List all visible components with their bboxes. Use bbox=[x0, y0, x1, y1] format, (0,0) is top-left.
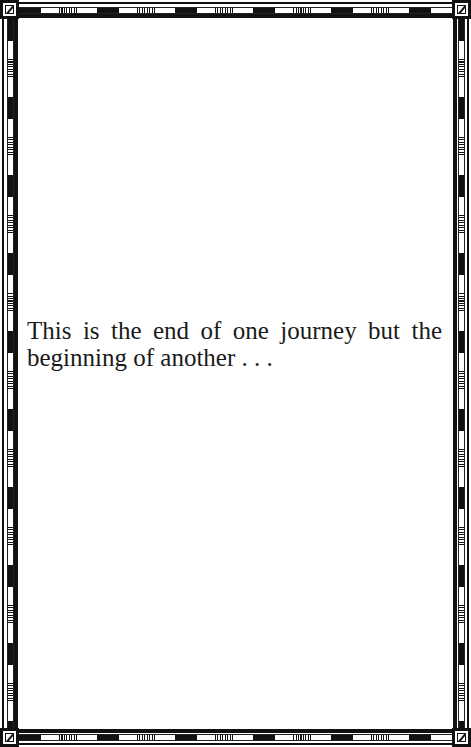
hatch-segment bbox=[459, 293, 464, 313]
text-line-2: beginning of another . . . bbox=[27, 344, 442, 371]
border-top bbox=[19, 0, 452, 19]
corner-ornament-top-left bbox=[0, 0, 19, 19]
hatch-segment bbox=[215, 8, 235, 13]
text-line-1: This is the end of one journey but the bbox=[27, 317, 442, 344]
hatch-segment bbox=[8, 215, 13, 235]
hatch-segment bbox=[459, 137, 464, 157]
border-bottom bbox=[19, 728, 452, 747]
closing-passage: This is the end of one journey but the b… bbox=[27, 317, 442, 371]
corner-diagonal-icon bbox=[457, 5, 466, 14]
hatch-segment bbox=[137, 8, 157, 13]
corner-diagonal-icon bbox=[5, 5, 14, 14]
hatch-segment bbox=[8, 449, 13, 469]
corner-diagonal-icon bbox=[457, 733, 466, 742]
hatch-segment bbox=[8, 605, 13, 625]
corner-ornament-bottom-left bbox=[0, 728, 19, 747]
hatch-segment bbox=[459, 59, 464, 79]
hatch-segment bbox=[459, 605, 464, 625]
hatch-segment bbox=[8, 527, 13, 547]
hatch-segment bbox=[371, 8, 391, 13]
hatch-segment bbox=[137, 735, 157, 740]
corner-diagonal-icon bbox=[5, 733, 14, 742]
hatch-segment bbox=[59, 735, 79, 740]
hatch-segment bbox=[59, 8, 79, 13]
hatch-segment bbox=[215, 735, 235, 740]
hatch-segment bbox=[293, 8, 313, 13]
hatch-segment bbox=[459, 683, 464, 703]
hatch-segment bbox=[8, 683, 13, 703]
corner-ornament-bottom-right bbox=[452, 728, 471, 747]
hatch-segment bbox=[293, 735, 313, 740]
border-left bbox=[0, 19, 19, 728]
hatch-segment bbox=[8, 59, 13, 79]
hatch-segment bbox=[8, 371, 13, 391]
hatch-segment bbox=[459, 449, 464, 469]
hatch-segment bbox=[371, 735, 391, 740]
hatch-segment bbox=[459, 371, 464, 391]
book-page: This is the end of one journey but the b… bbox=[0, 0, 471, 747]
hatch-segment bbox=[459, 215, 464, 235]
corner-ornament-top-right bbox=[452, 0, 471, 19]
border-right bbox=[452, 19, 471, 728]
hatch-segment bbox=[459, 527, 464, 547]
hatch-segment bbox=[8, 137, 13, 157]
hatch-segment bbox=[8, 293, 13, 313]
